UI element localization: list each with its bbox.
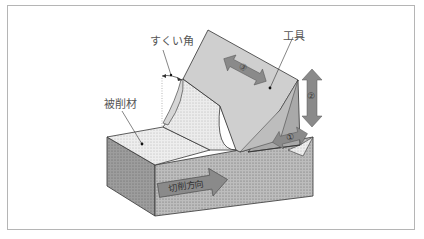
cutting-diagram xyxy=(0,0,424,239)
rake-angle-label: すくい角 xyxy=(150,32,194,48)
arrow-2-label: ② xyxy=(307,91,315,101)
tool-label: 工具 xyxy=(283,27,305,43)
workpiece-label: 被削材 xyxy=(104,95,137,111)
